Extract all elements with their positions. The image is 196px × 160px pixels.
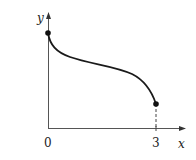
x-axis-label: x (178, 137, 185, 151)
function-curve (48, 33, 156, 104)
y-axis-arrow-icon (46, 12, 51, 19)
end-point-dot (153, 101, 159, 107)
x-tick-label-0: 0 (44, 136, 52, 150)
x-axis-arrow-icon (179, 126, 186, 131)
function-graph: y 0 3 x (0, 0, 196, 160)
y-axis-label: y (36, 11, 44, 25)
x-tick-label-3: 3 (152, 136, 160, 150)
start-point-dot (45, 30, 51, 36)
